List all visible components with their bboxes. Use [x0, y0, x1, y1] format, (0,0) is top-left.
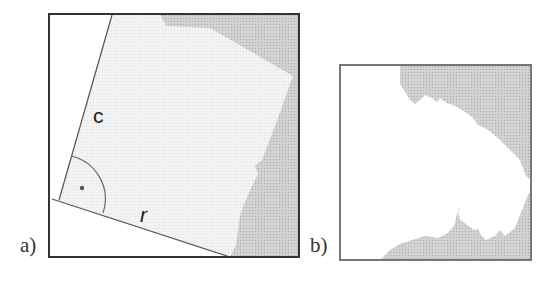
- edge-label-r: r: [140, 203, 148, 226]
- panel-a: c r a): [20, 14, 299, 257]
- panel-label-b: b): [310, 233, 328, 257]
- edge-label-c: c: [93, 104, 104, 127]
- panel-b: b): [310, 65, 531, 260]
- figure-canvas: c r a) b): [0, 0, 557, 281]
- panel-label-a: a): [20, 233, 36, 257]
- angle-dot-icon: [80, 186, 84, 190]
